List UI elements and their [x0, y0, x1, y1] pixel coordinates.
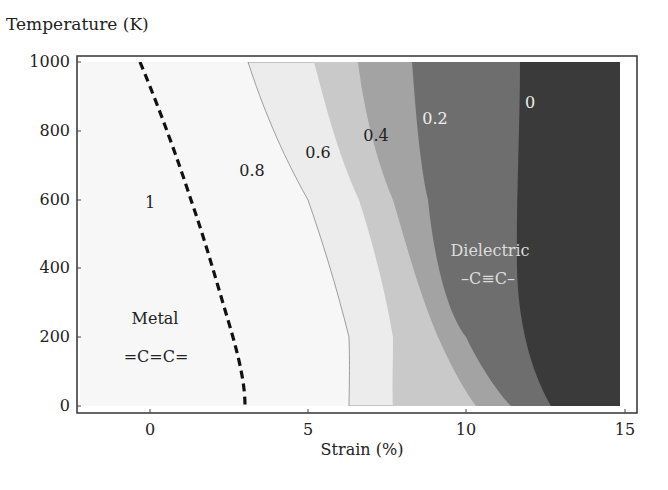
phase-label-dielectric: Dielectric [450, 241, 529, 260]
x-tick-10: 10 [446, 420, 486, 439]
region-level-0 [517, 62, 620, 406]
metal-bond-formula: =C=C= [124, 347, 189, 366]
x-tick-0: 0 [130, 420, 170, 439]
dielectric-bond-formula: –C≡C– [461, 269, 515, 288]
contour-label-0.8: 0.8 [239, 161, 264, 180]
contour-label-0.4: 0.4 [363, 126, 388, 145]
contour-label-0: 0 [525, 93, 535, 112]
x-axis-label: Strain (%) [302, 440, 422, 459]
contour-label-1: 1 [145, 193, 155, 212]
contour-label-0.2: 0.2 [422, 109, 447, 128]
contour-label-0.6: 0.6 [305, 143, 330, 162]
x-tick-15: 15 [605, 420, 645, 439]
contour-plot: 1 0.8 0.6 0.4 0.2 0 Metal =C=C= Dielectr… [0, 0, 668, 490]
phase-label-metal: Metal [132, 309, 179, 328]
x-tick-5: 5 [288, 420, 328, 439]
